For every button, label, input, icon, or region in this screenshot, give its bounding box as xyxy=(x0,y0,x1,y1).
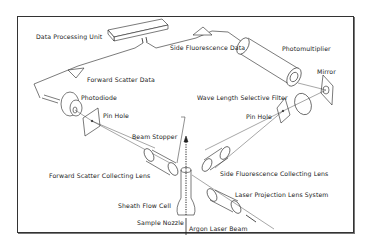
label-side-fluorescence-collecting-lens: Side Fluorescence Collecting Lens xyxy=(220,170,328,177)
photodiode-icon xyxy=(42,92,82,116)
label-laser-projection-lens-system: Laser Projection Lens System xyxy=(235,191,328,198)
label-argon-laser-beam: Argon Laser Beam xyxy=(189,225,248,232)
label-wave-length-selective-filter: Wave Length Selective Filter xyxy=(197,94,288,101)
side-fluorescence-amplifier-icon xyxy=(193,27,212,35)
label-photomultiplier: Photomultiplier xyxy=(282,45,331,52)
data-processing-unit-icon xyxy=(108,19,168,41)
label-pin-hole-left: Pin Hole xyxy=(103,112,129,119)
label-data-processing-unit: Data Processing Unit xyxy=(36,33,102,40)
label-side-fluorescence-data: Side Fluorescence Data xyxy=(170,44,245,51)
label-pin-hole-right: Pin Hole xyxy=(246,113,272,120)
side-fluorescence-collecting-lens-icon xyxy=(200,145,232,173)
pin-hole-left-icon xyxy=(83,108,100,136)
label-mirror: Mirror xyxy=(317,68,336,75)
wave-length-selective-filter-icon xyxy=(292,91,315,117)
label-forward-scatter-collecting-lens: Forward Scatter Collecting Lens xyxy=(49,172,150,179)
label-photodiode: Photodiode xyxy=(81,94,117,101)
label-sample-nozzle: Sample Nozzle xyxy=(137,219,184,226)
label-sheath-flow-cell: Sheath Flow Cell xyxy=(118,202,171,209)
forward-scatter-amplifier-icon xyxy=(68,68,84,78)
label-forward-scatter-data: Forward Scatter Data xyxy=(87,76,155,83)
label-beam-stopper: Beam Stopper xyxy=(132,133,177,140)
sheath-flow-cell-icon xyxy=(177,168,195,216)
